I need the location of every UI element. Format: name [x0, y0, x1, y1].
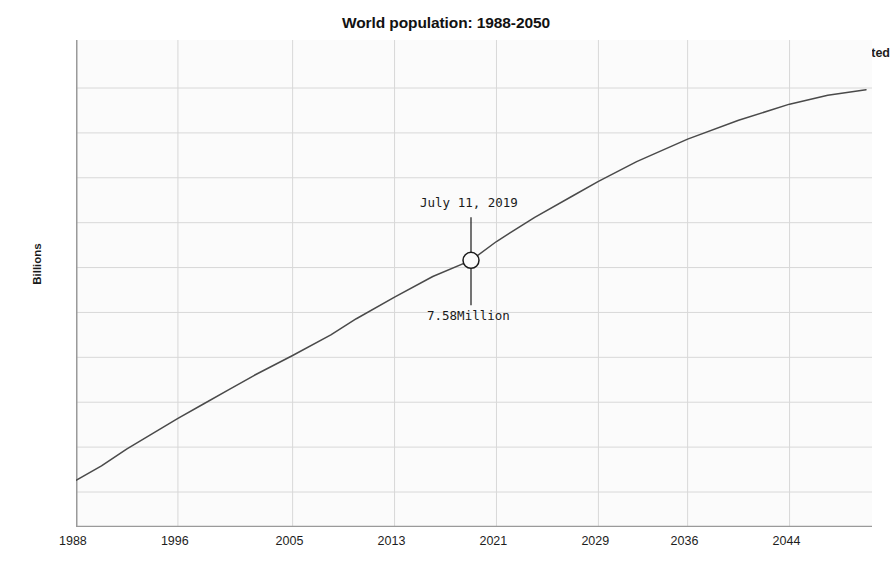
grid-lines — [76, 40, 872, 526]
x-axis-tick-label: 2013 — [378, 534, 406, 548]
annotation-marker-circle — [463, 252, 479, 268]
y-axis-title: Billions — [31, 219, 43, 309]
chart-screenshot: World population: 1988-2050 Historical e… — [0, 0, 892, 583]
plot-area — [76, 40, 872, 527]
x-axis-tick-label: 2044 — [773, 534, 801, 548]
x-axis-tick-label: 2029 — [581, 534, 609, 548]
x-axis-tick-label: 1996 — [161, 534, 189, 548]
annotation-date-label: July 11, 2019 — [420, 195, 518, 210]
x-axis-tick-label: 2021 — [479, 534, 507, 548]
annotation-value-label: 7.58Million — [427, 308, 510, 323]
x-axis-tick-label: 1988 — [59, 534, 87, 548]
chart-title: World population: 1988-2050 — [0, 14, 892, 32]
x-axis-tick-label: 2036 — [671, 534, 699, 548]
chart-plot-svg — [76, 40, 872, 527]
axis-lines — [76, 40, 872, 527]
x-axis-tick-label: 2005 — [276, 534, 304, 548]
